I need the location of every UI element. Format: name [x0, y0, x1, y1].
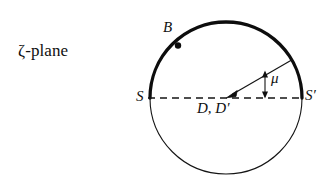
angle-mu-label: μ [271, 71, 279, 86]
point-s-label: S [136, 89, 144, 104]
point-s-prime-label: S′ [305, 88, 316, 103]
zeta-plane-label: ζ-plane [18, 42, 68, 59]
radius-arrowhead [227, 91, 238, 98]
point-b-marker [175, 42, 181, 48]
point-b-label: B [163, 20, 172, 35]
center-point-label: D, D′ [197, 101, 229, 116]
upper-semicircle-thick [150, 22, 302, 98]
zeta-plane-figure: ζ-plane B S S′ D, D′ μ [0, 0, 334, 182]
